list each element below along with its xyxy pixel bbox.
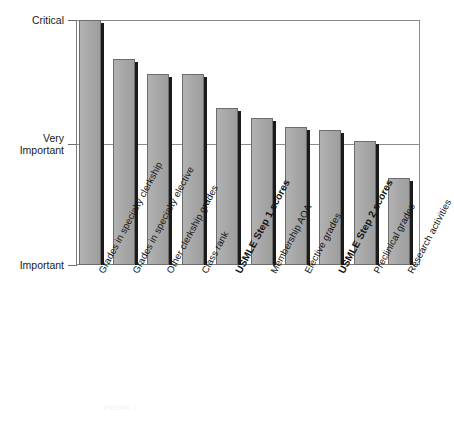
bar-fill — [285, 127, 307, 265]
bar-fill — [251, 118, 273, 265]
bar — [354, 141, 376, 265]
y-tick-important — [68, 265, 77, 266]
bar — [147, 74, 169, 265]
bar — [113, 59, 135, 265]
bar — [216, 108, 238, 265]
bar-fill — [113, 59, 135, 265]
bar-fill — [79, 20, 101, 265]
figure-caption: FIGURE 1 — [104, 404, 136, 411]
y-axis-label-very-important: Very Important — [0, 132, 64, 156]
bar-fill — [388, 178, 410, 265]
y-axis-label-important: Important — [0, 259, 64, 271]
bars-container — [76, 20, 420, 265]
bar — [79, 20, 101, 265]
bar-fill — [147, 74, 169, 265]
bar-fill — [319, 130, 341, 265]
bar — [388, 178, 410, 265]
bar — [182, 74, 204, 265]
bar-fill — [182, 74, 204, 265]
bar — [319, 130, 341, 265]
y-axis-label-critical: Critical — [0, 14, 64, 26]
bar — [251, 118, 273, 265]
bar-fill — [216, 108, 238, 265]
bar-fill — [354, 141, 376, 265]
bar — [285, 127, 307, 265]
